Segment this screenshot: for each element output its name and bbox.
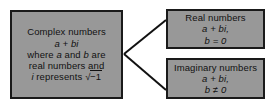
complex-form-b: bi — [71, 38, 79, 49]
real-title: Real numbers — [185, 12, 245, 23]
complex-form: a + bi — [54, 38, 78, 49]
complex-title: Complex numbers — [27, 26, 106, 37]
connector-complex-to-imaginary — [124, 54, 166, 90]
imaginary-form: a + bi, — [202, 73, 229, 84]
complex-form-op: + — [60, 38, 71, 49]
imaginary-condition: b ≠ 0 — [205, 84, 227, 95]
imaginary-form-b: bi, — [219, 73, 229, 84]
number-classification-diagram: Complex numbers a + bi where a and b are… — [0, 0, 273, 107]
complex-cond-pre: where — [27, 49, 56, 60]
complex-cond-mid: and — [62, 49, 84, 60]
radicand: −1 — [90, 70, 102, 82]
complex-condition-line-3: i represents√−1 — [31, 71, 101, 82]
real-form-op: + — [207, 23, 218, 34]
real-cond-rel: = — [210, 35, 221, 46]
connector-complex-to-real — [124, 20, 166, 54]
node-imaginary-numbers[interactable]: Imaginary numbers a + bi, b ≠ 0 — [166, 58, 265, 99]
complex-represents-text: represents — [34, 71, 83, 82]
imaginary-cond-val: 0 — [221, 84, 226, 95]
node-complex-numbers[interactable]: Complex numbers a + bi where a and b are… — [10, 10, 123, 99]
real-cond-val: 0 — [221, 35, 226, 46]
complex-condition-line-1: where a and b are — [27, 49, 105, 60]
real-condition: b = 0 — [205, 35, 227, 46]
square-root-icon: √−1 — [85, 71, 101, 82]
real-form-b: bi, — [219, 23, 229, 34]
real-form: a + bi, — [202, 23, 229, 34]
imaginary-title: Imaginary numbers — [174, 62, 257, 73]
complex-cond-post: are — [89, 49, 106, 60]
node-real-numbers[interactable]: Real numbers a + bi, b = 0 — [166, 9, 265, 49]
imaginary-cond-rel: ≠ — [210, 84, 221, 95]
imaginary-form-op: + — [207, 73, 218, 84]
